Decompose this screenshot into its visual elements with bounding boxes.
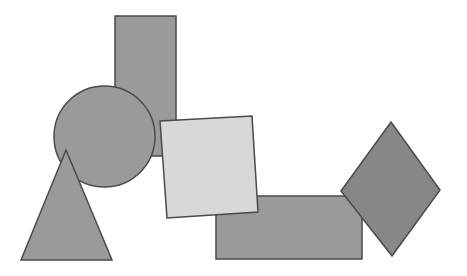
scene-container (0, 0, 467, 276)
shapes-canvas (0, 0, 467, 276)
light-square-shape (160, 116, 258, 218)
